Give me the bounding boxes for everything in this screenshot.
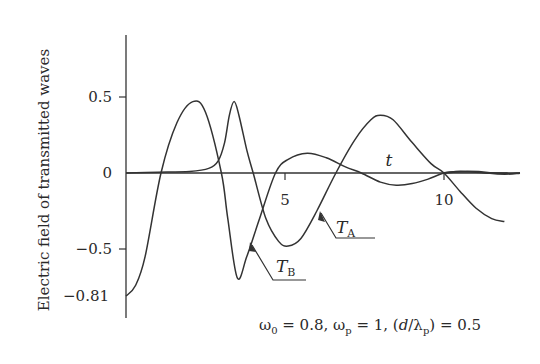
omega-0-symbol: ω xyxy=(259,316,271,334)
arrow-head-icon xyxy=(249,242,256,252)
y-tick-label--0.81: −0.81 xyxy=(63,287,109,305)
curve-t-a xyxy=(126,102,504,247)
omega-p-symbol: ω xyxy=(333,316,345,334)
omega-p-value: = 1, ( xyxy=(352,316,399,334)
x-tick-label-10: 10 xyxy=(434,191,453,209)
svg-text:TB: TB xyxy=(276,256,295,279)
arrow-head-icon xyxy=(318,211,325,222)
d-symbol: d xyxy=(399,316,409,334)
chart-caption: ω0 = 0.8, ωp = 1, (d/λp) = 0.5 xyxy=(200,316,540,336)
label-t-b: TB xyxy=(249,242,306,280)
y-tick-label--0.5: −0.5 xyxy=(76,240,112,258)
omega-0-value: = 0.8, xyxy=(278,316,334,334)
x-tick-label-5: 5 xyxy=(280,191,290,209)
chart: 0.5 0 −0.5 −0.81 5 10 t Electric field o… xyxy=(0,0,540,364)
y-tick-label-0: 0 xyxy=(102,164,112,182)
lambda-symbol: /λ xyxy=(408,316,423,334)
y-axis-title: Electric field of transmitted waves xyxy=(35,49,53,311)
ratio-value: ) = 0.5 xyxy=(429,316,481,334)
x-axis-label: t xyxy=(386,150,393,170)
svg-text:TA: TA xyxy=(336,217,356,240)
y-tick-label-0.5: 0.5 xyxy=(88,88,112,106)
label-t-a: TA xyxy=(318,211,375,240)
